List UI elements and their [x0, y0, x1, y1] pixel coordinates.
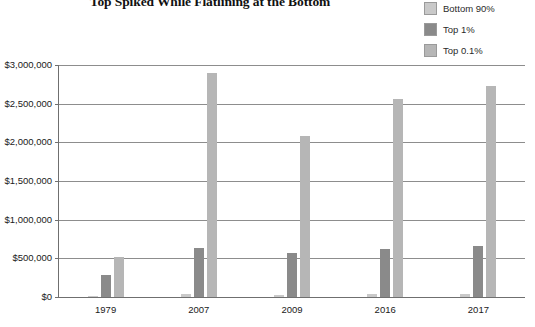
x-axis-tick-label: 2007	[151, 304, 247, 315]
y-axis-tick-label: $2,500,000	[0, 98, 52, 109]
chart-title: Top Spiked While Flatlining at the Botto…	[0, 0, 420, 10]
bar	[393, 99, 403, 297]
bar	[101, 275, 111, 297]
bar-group	[274, 65, 310, 297]
bar	[207, 73, 217, 297]
bar	[473, 246, 483, 297]
y-tick-mark	[55, 181, 59, 182]
bar	[300, 136, 310, 297]
bar	[460, 294, 470, 297]
bar	[88, 296, 98, 297]
x-axis-tick-label: 2009	[244, 304, 340, 315]
legend-item-top-1: Top 1%	[424, 21, 535, 37]
plot-area: $0$500,000$1,000,000$1,500,000$2,000,000…	[59, 65, 525, 297]
bar-group	[460, 65, 496, 297]
bar	[181, 294, 191, 297]
x-axis-tick-label: 2017	[430, 304, 526, 315]
chart-legend: Bottom 90% Top 1% Top 0.1%	[424, 0, 535, 63]
x-axis-tick-label: 2016	[337, 304, 433, 315]
y-axis-tick-label: $0	[0, 291, 52, 302]
bar	[114, 257, 124, 297]
bar-group	[88, 65, 124, 297]
bar-group	[181, 65, 217, 297]
y-axis-tick-label: $1,500,000	[0, 175, 52, 186]
y-tick-mark	[55, 297, 59, 298]
x-axis-tick-label: 1979	[58, 304, 154, 315]
y-axis-tick-label: $2,000,000	[0, 136, 52, 147]
bar	[486, 86, 496, 297]
bar	[380, 249, 390, 297]
legend-label: Bottom 90%	[443, 3, 495, 14]
bar	[274, 295, 284, 297]
legend-item-bottom-90: Bottom 90%	[424, 0, 535, 16]
y-axis-tick-label: $3,000,000	[0, 59, 52, 70]
legend-label: Top 0.1%	[443, 45, 483, 56]
y-tick-mark	[55, 65, 59, 66]
y-axis-tick-label: $500,000	[0, 252, 52, 263]
bar	[367, 294, 377, 297]
bar-group	[367, 65, 403, 297]
legend-label: Top 1%	[443, 24, 475, 35]
x-axis-line	[58, 297, 525, 298]
y-tick-mark	[55, 258, 59, 259]
legend-swatch-icon	[424, 2, 437, 15]
y-tick-mark	[55, 142, 59, 143]
legend-swatch-icon	[424, 23, 437, 36]
y-tick-mark	[55, 220, 59, 221]
chart-container: Top Spiked While Flatlining at the Botto…	[0, 0, 535, 327]
bar	[194, 248, 204, 297]
legend-item-top-01: Top 0.1%	[424, 42, 535, 58]
bar	[287, 253, 297, 297]
y-axis-tick-label: $1,000,000	[0, 214, 52, 225]
legend-swatch-icon	[424, 44, 437, 57]
y-tick-mark	[55, 104, 59, 105]
